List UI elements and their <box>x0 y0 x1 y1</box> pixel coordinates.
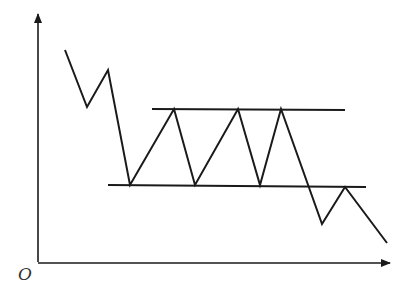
diagram-svg <box>0 0 400 297</box>
origin-label: O <box>18 264 32 284</box>
support-line <box>108 185 366 187</box>
resistance-line <box>152 109 345 110</box>
diagram-canvas: O <box>0 0 400 297</box>
price-path <box>65 50 387 243</box>
